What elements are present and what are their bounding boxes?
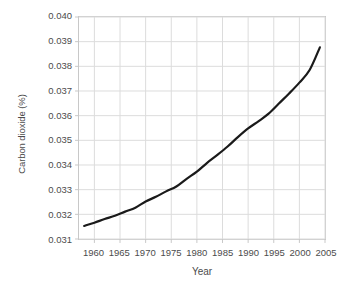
y-tick-label: 0.037 bbox=[26, 85, 72, 96]
plot-area bbox=[78, 16, 326, 240]
y-tick-label: 0.034 bbox=[26, 159, 72, 170]
axis-ticks bbox=[79, 17, 325, 239]
y-tick-label: 0.035 bbox=[26, 134, 72, 145]
y-tick-label: 0.039 bbox=[26, 35, 72, 46]
co2-line-chart-figure: Carbon dioxide (%) 0.0310.0320.0330.0340… bbox=[0, 0, 346, 289]
y-tick-label: 0.040 bbox=[26, 10, 72, 21]
y-tick-label: 0.038 bbox=[26, 60, 72, 71]
y-tick-label: 0.031 bbox=[26, 234, 72, 245]
x-tick-label: 2005 bbox=[306, 247, 346, 258]
x-axis-title: Year bbox=[78, 266, 326, 277]
y-tick-label: 0.036 bbox=[26, 110, 72, 121]
y-tick-label: 0.032 bbox=[26, 209, 72, 220]
y-tick-label: 0.033 bbox=[26, 184, 72, 195]
